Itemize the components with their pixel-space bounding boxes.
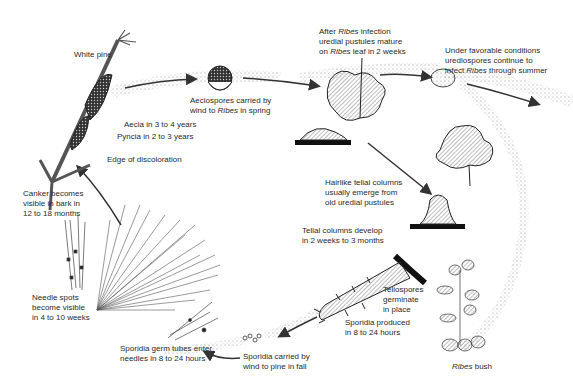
label-ribes-bush: Ribes bush [452,362,492,372]
label-sporidia-wind: Sporidia carried by wind to pine in fall [243,352,310,372]
label-hairlike-line3: old uredial pustules [325,198,402,208]
germ-tube-needles-illustration [168,302,218,340]
label-edge-discoloration: Edge of discoloration [107,155,182,165]
label-telial-develop: Telial columns develop in 2 weeks to 3 m… [302,226,384,246]
label-aeciospores: Aeciospores carried by wind to Ribes in … [190,96,271,116]
label-aecia: Aecia in 3 to 4 years [124,120,196,130]
label-ribes-infection: After Ribes infection uredial pustules m… [319,27,406,57]
label-canker-line3: 12 to 18 months [23,209,83,219]
label-sporidia-wind-line1: Sporidia carried by [243,352,310,362]
label-hairlike-line2: usually emerge from [325,188,402,198]
label-teliospores-line3: in place [383,305,423,315]
label-aeciospores-line1: Aeciospores carried by [190,96,271,106]
label-favorable-line1: Under favorable conditions [445,46,547,56]
label-telial-line1: Telial columns develop [302,226,384,236]
label-needle-line1: Needle spots [32,293,90,303]
label-sporidia-produced-line1: Sporidia produced [345,318,410,328]
sporidia-illustration [243,334,261,342]
label-needle-line2: become visible [32,303,90,313]
telial-column-illustration [410,195,465,229]
uredial-pustule-illustration [295,128,351,145]
label-sporidia-produced: Sporidia produced in 8 to 24 hours [345,318,410,338]
label-aeciospores-line2: wind to Ribes in spring [190,106,271,116]
pine-needles-illustration [97,205,220,310]
label-canker: Canker becomes visible in bark in 12 to … [23,189,83,219]
ribes-bush-illustration [437,260,485,351]
label-needle-spots: Needle spots become visible in 4 to 10 w… [32,293,90,323]
label-white-pine: White pine [74,50,112,60]
label-hairlike-telial: Hairlike telial columns usually emerge f… [325,178,402,208]
ribes-leaf-2-illustration [436,125,493,186]
label-canker-line2: visible in bark in [23,199,83,209]
label-favorable-line2: urediospores continue to [445,56,547,66]
label-sporidia-produced-line2: in 8 to 24 hours [345,328,410,338]
label-germ-line1: Sporidia germ tubes enter [120,344,212,354]
needle-spots-illustration [65,215,85,290]
label-germ-line2: needles in 8 to 24 hours [120,354,212,364]
label-teliospores: Teliospores germinate in place [383,285,423,315]
label-ribes-infection-line2: uredial pustules mature [319,37,406,47]
label-hairlike-line1: Hairlike telial columns [325,178,402,188]
label-sporidia-wind-line2: wind to pine in fall [243,362,310,372]
label-pyncia: Pyncia in 2 to 3 years [117,132,193,142]
label-ribes-infection-line3: on Ribes leaf in 2 weeks [319,47,406,57]
label-canker-line1: Canker becomes [23,189,83,199]
label-germ-tubes: Sporidia germ tubes enter needles in 8 t… [120,344,212,364]
label-favorable-conditions: Under favorable conditions urediospores … [445,46,547,76]
label-teliospores-line2: germinate [383,295,423,305]
label-needle-line3: in 4 to 10 weeks [32,313,90,323]
aeciospore-illustration [208,66,232,90]
label-ribes-infection-line1: After Ribes infection [319,27,406,37]
label-teliospores-line1: Teliospores [383,285,423,295]
label-favorable-line3: infect Ribes through summer [445,66,547,76]
label-telial-line2: in 2 weeks to 3 months [302,236,384,246]
